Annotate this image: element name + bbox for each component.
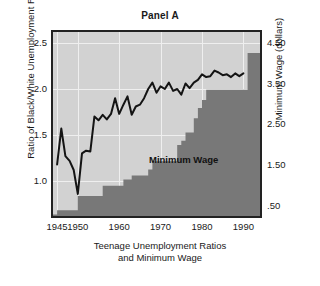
y-axis-right-tick-label: 1.50 bbox=[267, 159, 307, 170]
y-axis-left-tick-label: 2.5 bbox=[1, 37, 47, 48]
x-axis-caption-line-1: Teenage Unemployment Ratios bbox=[20, 240, 300, 252]
page-title: Panel A bbox=[0, 10, 320, 21]
minimum-wage-annotation: Minimum Wage bbox=[149, 154, 218, 165]
plot-area: Minimum Wage bbox=[51, 30, 262, 218]
x-axis-tick-label: 1990 bbox=[223, 221, 263, 232]
plot-inner: Minimum Wage bbox=[53, 32, 260, 216]
x-axis-tick-label: 1980 bbox=[182, 221, 222, 232]
chart-figure: Panel A Ratio of Black/White Unemploymen… bbox=[0, 0, 320, 286]
y-axis-right-tick-label: 3.50 bbox=[267, 78, 307, 89]
x-axis-tick-label: 1960 bbox=[99, 221, 139, 232]
y-axis-left-tick-label: 1.5 bbox=[1, 129, 47, 140]
x-axis-caption: Teenage Unemployment Ratios and Minimum … bbox=[20, 240, 300, 264]
y-axis-left-tick-label: 1.0 bbox=[1, 175, 47, 186]
unemployment-ratio-path bbox=[57, 71, 243, 194]
y-axis-left-tick-label: 2.0 bbox=[1, 83, 47, 94]
y-axis-right-tick-label: .50 bbox=[267, 200, 307, 211]
y-axis-right-tick-label: 2.50 bbox=[267, 118, 307, 129]
y-axis-right-tick-label: 4.50 bbox=[267, 37, 307, 48]
x-axis-tick-label: 1970 bbox=[141, 221, 181, 232]
x-axis-caption-line-2: and Minimum Wage bbox=[20, 252, 300, 264]
unemployment-ratio-line bbox=[53, 32, 260, 216]
x-axis-tick-label: 1950 bbox=[58, 221, 98, 232]
